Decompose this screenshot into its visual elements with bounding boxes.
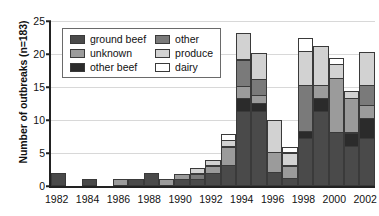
- bar-segment-produce: [298, 51, 313, 86]
- legend-swatch-icon: [155, 63, 170, 72]
- x-tick-slot: 1994: [234, 188, 249, 210]
- bar-segment-unknown: [329, 78, 344, 133]
- stacked-bar[interactable]: [128, 180, 143, 186]
- legend-item-other-beef[interactable]: other beef: [70, 61, 146, 73]
- y-tick-label: 15: [33, 81, 51, 93]
- bar-segment-unknown: [313, 85, 328, 99]
- legend-swatch-icon: [155, 49, 170, 58]
- y-tick-label: 5: [39, 147, 51, 159]
- legend-item-other[interactable]: other: [155, 33, 213, 45]
- bar-slot: [251, 21, 266, 186]
- bar-segment-unknown: [159, 179, 174, 186]
- bar-slot: [344, 21, 359, 186]
- legend-label: ground beef: [90, 33, 146, 45]
- stacked-bar[interactable]: [174, 174, 189, 186]
- legend-item-unknown[interactable]: unknown: [70, 47, 146, 59]
- legend-label: produce: [175, 47, 213, 59]
- bar-segment-ground-beef: [329, 132, 344, 186]
- stacked-bar[interactable]: [298, 39, 313, 186]
- bar-segment-other: [251, 79, 266, 96]
- stacked-bar[interactable]: [144, 174, 159, 186]
- bar-slot: [298, 21, 313, 186]
- legend-swatch-icon: [70, 63, 85, 72]
- y-tick-label: 20: [33, 48, 51, 60]
- bar-segment-unknown: [267, 152, 282, 172]
- stacked-bar[interactable]: [51, 174, 66, 186]
- x-tick-slot: 2002: [357, 188, 372, 210]
- bar-slot: [359, 21, 374, 186]
- bar-segment-other: [298, 85, 313, 132]
- legend-label: unknown: [90, 47, 132, 59]
- stacked-bar[interactable]: [159, 180, 174, 186]
- stacked-bar[interactable]: [359, 53, 374, 186]
- x-tick-slot: 1984: [80, 188, 95, 210]
- stacked-bar[interactable]: [282, 147, 297, 186]
- bar-slot: [267, 21, 282, 186]
- bar-segment-ground-beef: [298, 138, 313, 186]
- x-tick-slot: 1998: [296, 188, 311, 210]
- stacked-bar[interactable]: [344, 92, 359, 186]
- stacked-bar[interactable]: [205, 161, 220, 186]
- legend-swatch-icon: [70, 35, 85, 44]
- x-tick-label: 2002: [353, 193, 376, 205]
- bar-segment-dairy: [298, 38, 313, 52]
- legend-swatch-icon: [70, 49, 85, 58]
- chart-figure: Number of outbreaks (n=183) 0510152025 1…: [0, 0, 379, 216]
- bar-segment-unknown: [282, 166, 297, 179]
- bar-segment-unknown: [236, 86, 251, 99]
- bar-slot: [282, 21, 297, 186]
- legend-item-ground-beef[interactable]: ground beef: [70, 33, 146, 45]
- bar-segment-ground-beef: [251, 111, 266, 186]
- chart-legend: ground beefotherunknownproduceother beef…: [62, 28, 221, 78]
- legend-swatch-icon: [155, 35, 170, 44]
- x-tick-slot: 1982: [49, 188, 64, 210]
- stacked-bar[interactable]: [190, 168, 205, 186]
- bar-segment-ground-beef: [174, 179, 189, 186]
- bar-segment-other-beef: [313, 98, 328, 112]
- bar-segment-ground-beef: [144, 173, 159, 186]
- x-tick-slot: 1992: [203, 188, 218, 210]
- legend-item-dairy[interactable]: dairy: [155, 61, 213, 73]
- bar-segment-ground-beef: [359, 138, 374, 186]
- bar-segment-ground-beef: [236, 111, 251, 186]
- stacked-bar[interactable]: [313, 46, 328, 186]
- stacked-bar[interactable]: [251, 54, 266, 186]
- bar-segment-produce: [282, 153, 297, 167]
- bar-segment-other-beef: [236, 98, 251, 111]
- x-tick-slot: 2000: [327, 188, 342, 210]
- x-axis-labels: 1982198419861988199019921994199619982000…: [49, 188, 373, 210]
- bar-slot: [329, 21, 344, 186]
- bar-segment-ground-beef: [344, 146, 359, 186]
- bar-segment-produce: [236, 33, 251, 61]
- legend-item-produce[interactable]: produce: [155, 47, 213, 59]
- bar-segment-ground-beef: [51, 173, 66, 186]
- x-tick-slot: 1996: [265, 188, 280, 210]
- bar-segment-ground-beef: [267, 172, 282, 186]
- bar-segment-produce: [267, 120, 282, 154]
- stacked-bar[interactable]: [221, 135, 236, 186]
- bar-slot: [236, 21, 251, 186]
- legend-label: other beef: [90, 61, 137, 73]
- x-tick-slot: 1986: [111, 188, 126, 210]
- bar-segment-ground-beef: [313, 111, 328, 186]
- stacked-bar[interactable]: [329, 59, 344, 186]
- stacked-bar[interactable]: [236, 33, 251, 186]
- bar-segment-ground-beef: [82, 179, 97, 186]
- legend-label: dairy: [175, 61, 198, 73]
- bar-slot: [313, 21, 328, 186]
- bar-segment-produce: [251, 53, 266, 80]
- bar-segment-ground-beef: [221, 165, 236, 186]
- bar-segment-ground-beef: [282, 178, 297, 186]
- bar-segment-other-beef: [344, 133, 359, 147]
- bar-segment-produce: [329, 64, 344, 79]
- legend-label: other: [175, 33, 199, 45]
- y-tick-label: 25: [33, 15, 51, 27]
- stacked-bar[interactable]: [267, 120, 282, 186]
- stacked-bar[interactable]: [82, 180, 97, 186]
- bar-slot: [221, 21, 236, 186]
- bar-segment-unknown: [359, 105, 374, 119]
- bar-segment-produce: [313, 46, 328, 86]
- stacked-bar[interactable]: [113, 180, 128, 186]
- bar-segment-ground-beef: [190, 179, 205, 186]
- bar-segment-ground-beef: [128, 179, 143, 186]
